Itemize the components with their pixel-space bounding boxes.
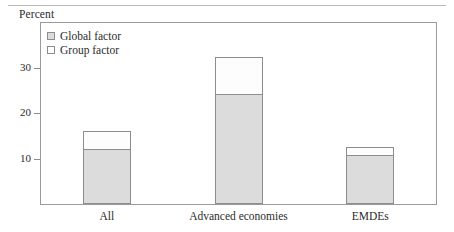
bar-segment-global-factor (215, 94, 263, 204)
bar-segment-group-factor (215, 57, 263, 95)
y-axis-tick-label: 20 (14, 107, 31, 118)
bar-stack (83, 131, 131, 204)
legend-label-global-factor: Global factor (60, 30, 121, 43)
y-axis-unit-label: Percent (19, 8, 54, 21)
y-axis-tick (34, 68, 40, 69)
y-axis-tick (34, 113, 40, 114)
x-axis-category-label: Advanced economies (173, 209, 305, 223)
legend-item-global-factor: Global factor (47, 29, 121, 43)
legend-swatch-icon-group-factor (47, 46, 55, 54)
bar-segment-global-factor (346, 155, 394, 204)
legend-label-group-factor: Group factor (60, 44, 119, 57)
x-axis-category-label: All (41, 209, 173, 223)
figure-container: Percent 102030 Global factor Group facto… (0, 0, 454, 232)
y-axis-tick-label: 30 (14, 62, 31, 73)
legend-item-group-factor: Group factor (47, 43, 121, 57)
x-axis-category-label: EMDEs (304, 209, 436, 223)
bar-stack (215, 57, 263, 204)
top-divider-rule (8, 5, 446, 6)
legend-swatch-icon-global-factor (47, 32, 55, 40)
y-axis-tick (34, 159, 40, 160)
bar-stack (346, 147, 394, 204)
chart-legend: Global factor Group factor (47, 29, 121, 57)
y-axis-tick-label: 10 (14, 153, 31, 164)
bar-segment-group-factor (83, 131, 131, 150)
bar-segment-global-factor (83, 149, 131, 204)
